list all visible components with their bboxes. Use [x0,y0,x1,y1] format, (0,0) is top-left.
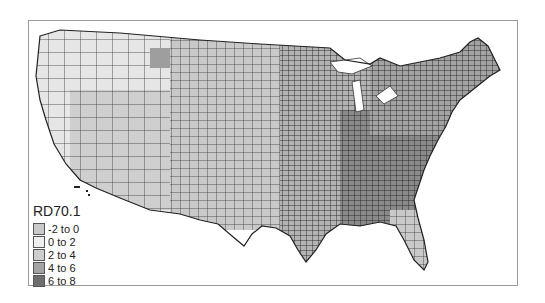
legend-swatch [33,236,45,248]
legend-swatch [33,249,45,261]
legend-label: -2 to 0 [48,223,79,235]
channel-islands [74,186,90,196]
legend-swatch [33,262,45,274]
choropleth-map [0,0,545,303]
legend-item: 0 to 2 [33,235,80,248]
us-counties [30,25,510,280]
legend-item: 6 to 8 [33,274,80,287]
legend-label: 6 to 8 [48,275,76,287]
legend-item: -2 to 0 [33,222,80,235]
legend-swatch [33,223,45,235]
legend-label: 2 to 4 [48,249,76,261]
legend-swatch [33,275,45,287]
map-legend: RD70.1 -2 to 0 0 to 2 2 to 4 4 to 6 6 to… [33,203,80,287]
legend-item: 4 to 6 [33,261,80,274]
legend-label: 0 to 2 [48,236,76,248]
legend-title: RD70.1 [33,203,80,219]
legend-label: 4 to 6 [48,262,76,274]
legend-item: 2 to 4 [33,248,80,261]
